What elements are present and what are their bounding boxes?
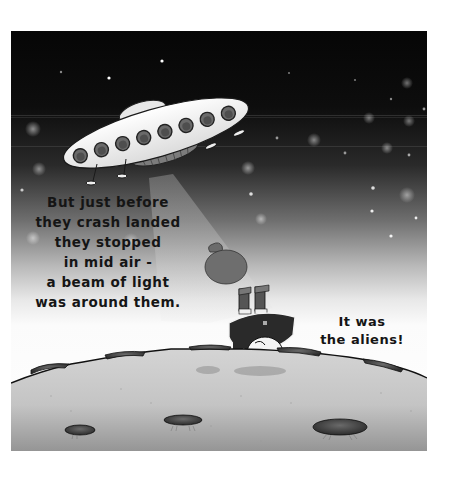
- reveal-line: the aliens!: [307, 331, 417, 349]
- narration-line: they crash landed: [33, 212, 183, 232]
- ufo: [54, 74, 256, 189]
- narration-line: they stopped: [33, 232, 183, 252]
- narration-line: But just before: [33, 192, 183, 212]
- narration-line: a beam of light: [33, 272, 183, 292]
- illustration-frame: But just before they crash landed they s…: [11, 31, 427, 451]
- narration-line: in mid air -: [33, 252, 183, 272]
- narration-caption: But just before they crash landed they s…: [33, 192, 183, 312]
- reveal-line: It was: [307, 313, 417, 331]
- reveal-caption: It was the aliens!: [307, 313, 417, 349]
- narration-line: was around them.: [33, 292, 183, 312]
